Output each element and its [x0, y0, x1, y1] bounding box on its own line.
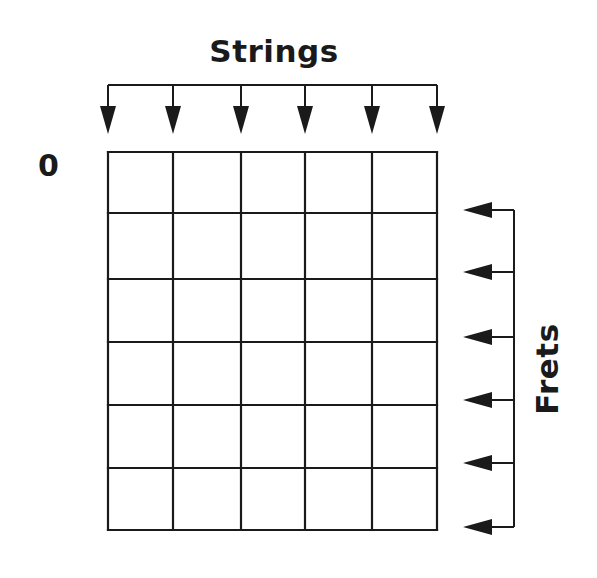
fret-arrows: [463, 202, 514, 535]
arrow-down-icon: [100, 106, 116, 134]
arrow-left-icon: [463, 455, 492, 471]
arrow-down-icon: [297, 106, 313, 134]
string-arrows: [100, 85, 445, 134]
arrow-left-icon: [463, 264, 492, 280]
arrow-left-icon: [463, 329, 492, 345]
arrow-down-icon: [233, 106, 249, 134]
chord-diagram: [0, 0, 597, 578]
arrow-left-icon: [463, 202, 492, 218]
arrow-down-icon: [364, 106, 380, 134]
arrow-down-icon: [165, 106, 181, 134]
arrow-left-icon: [463, 519, 492, 535]
fretboard-grid: [108, 152, 437, 530]
arrow-left-icon: [463, 392, 492, 408]
arrow-down-icon: [429, 106, 445, 134]
